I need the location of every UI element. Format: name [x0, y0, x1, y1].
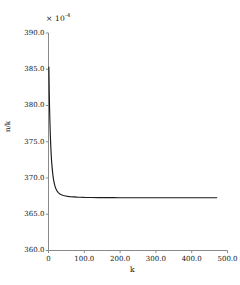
chart-figure: × 10-4 n/k k 360.0365.0370.0375.0380.038… — [0, 0, 240, 285]
axis-tick-marks — [46, 33, 228, 253]
data-curve — [49, 67, 217, 198]
axis-lines — [49, 33, 228, 251]
plot-area — [0, 0, 240, 285]
